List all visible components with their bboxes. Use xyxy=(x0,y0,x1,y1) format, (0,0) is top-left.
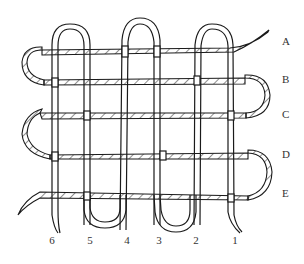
column-label-1: 1 xyxy=(232,235,238,246)
column-label-2: 2 xyxy=(193,235,199,246)
column-label-3: 3 xyxy=(156,235,162,246)
strand-crossings-over xyxy=(52,46,234,202)
weave-diagram: A B C D E 6 5 4 3 2 1 xyxy=(0,0,304,264)
row-label-b: B xyxy=(282,74,289,85)
column-label-5: 5 xyxy=(87,235,93,246)
row-label-d: D xyxy=(282,149,290,160)
column-label-4: 4 xyxy=(124,235,130,246)
row-label-a: A xyxy=(282,36,290,47)
weave-illustration xyxy=(0,0,304,264)
row-label-e: E xyxy=(282,188,289,199)
column-label-6: 6 xyxy=(49,235,55,246)
row-label-c: C xyxy=(282,109,289,120)
